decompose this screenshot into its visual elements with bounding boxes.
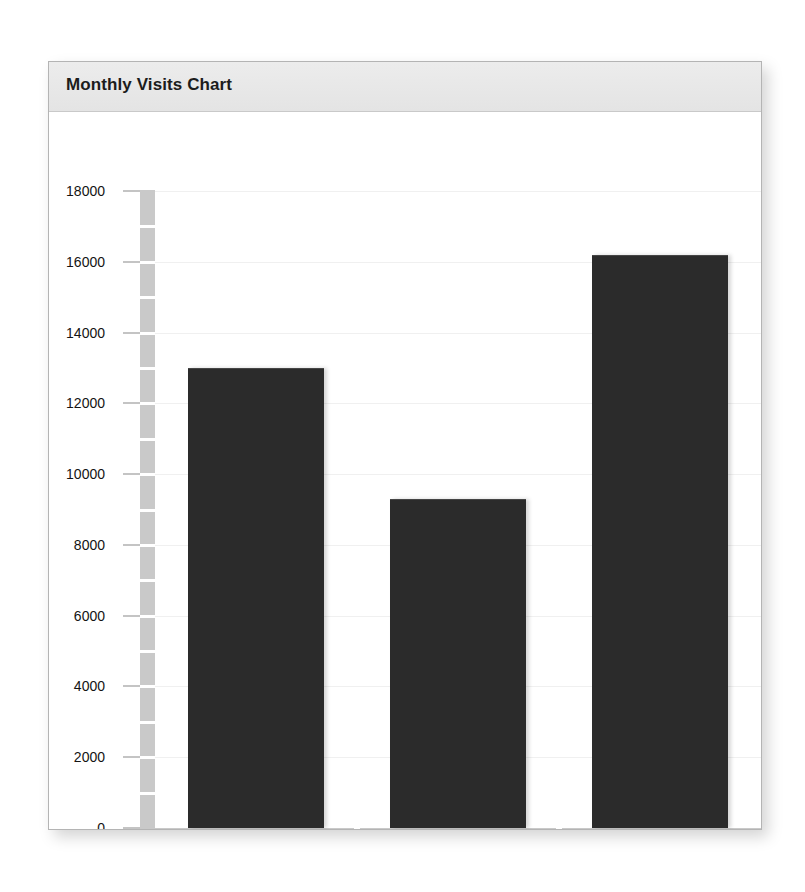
- y-axis-tick-mark: [123, 757, 140, 758]
- x-axis-segment: [562, 828, 761, 829]
- y-axis-tick-mark: [123, 403, 140, 404]
- x-axis-segment: [360, 828, 556, 829]
- y-axis-tick-mark: [123, 191, 140, 192]
- y-axis-segment-gap: [140, 579, 155, 582]
- x-axis-origin-stub: [140, 828, 152, 829]
- y-axis-segment-gap: [140, 756, 155, 759]
- chart-panel-header: Monthly Visits Chart: [49, 62, 761, 112]
- bar-site3.com[interactable]: [592, 255, 728, 828]
- y-axis-segment-gap: [140, 509, 155, 512]
- y-axis-segment-gap: [140, 332, 155, 335]
- bar-site1.com[interactable]: [188, 368, 324, 828]
- chart-panel: Monthly Visits Chart 0200040006000800010…: [48, 61, 762, 830]
- gridline: [155, 191, 761, 192]
- y-axis-segment-gap: [140, 296, 155, 299]
- y-axis-segment-gap: [140, 544, 155, 547]
- y-axis-tick-label: 14000: [49, 325, 105, 341]
- y-axis-segment-gap: [140, 721, 155, 724]
- y-axis-tick-mark: [123, 261, 140, 262]
- y-axis-segment-gap: [140, 367, 155, 370]
- y-axis-segment-gap: [140, 261, 155, 264]
- y-axis-segment-gap: [140, 473, 155, 476]
- page-title: Monthly Visits Chart: [66, 75, 232, 95]
- y-axis-tick-label: 6000: [49, 608, 105, 624]
- y-axis-segment-gap: [140, 402, 155, 405]
- y-axis-tick-label: 18000: [49, 183, 105, 199]
- y-axis-segment-gap: [140, 615, 155, 618]
- y-axis-segment-gap: [140, 225, 155, 228]
- page-root: Monthly Visits Chart 0200040006000800010…: [0, 0, 805, 892]
- y-axis-tick-label: 8000: [49, 537, 105, 553]
- y-axis-segment-gap: [140, 650, 155, 653]
- x-axis-segment: [155, 828, 354, 829]
- bar-site2.com[interactable]: [390, 499, 526, 828]
- y-axis-segment-gap: [140, 685, 155, 688]
- y-axis-tick-label: 2000: [49, 749, 105, 765]
- y-axis-tick-mark: [123, 686, 140, 687]
- y-axis-tick-mark: [123, 474, 140, 475]
- y-axis-tick-mark: [123, 544, 140, 545]
- y-axis-tick-label: 12000: [49, 395, 105, 411]
- y-axis-segment-gap: [140, 792, 155, 795]
- chart-plot-area: 0200040006000800010000120001400016000180…: [49, 112, 761, 829]
- y-axis-tick-label: 0: [49, 820, 105, 829]
- y-axis-tick-label: 16000: [49, 254, 105, 270]
- y-axis-tick-mark: [123, 828, 140, 829]
- y-axis-tick-mark: [123, 332, 140, 333]
- y-axis-tick-label: 10000: [49, 466, 105, 482]
- y-axis-tick-mark: [123, 615, 140, 616]
- y-axis-segment-gap: [140, 438, 155, 441]
- y-axis-tick-label: 4000: [49, 678, 105, 694]
